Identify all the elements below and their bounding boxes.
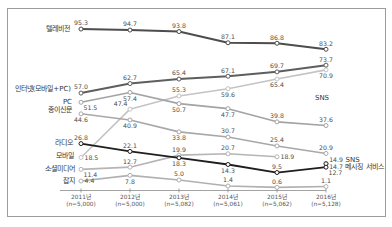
data-value-label: 73.7: [319, 56, 333, 63]
series-line: [81, 29, 326, 49]
x-tick-label-year: 2011년: [71, 193, 91, 200]
x-tick-label-year: 2013년: [169, 193, 189, 200]
data-value-label: 50.7: [172, 106, 186, 113]
data-point-marker: [324, 124, 328, 128]
line-chart: 2011년(n=5,000)2012년(n=5,000)2013년(n=5,08…: [0, 0, 392, 227]
data-value-label: 67.1: [221, 67, 235, 74]
data-point-marker: [275, 144, 279, 148]
data-value-label: 30.7: [221, 127, 235, 134]
data-value-label: 18.5: [85, 154, 99, 161]
data-value-label: 1.1: [321, 177, 331, 184]
data-value-label: 57.4: [123, 95, 137, 102]
data-value-label: 47.7: [221, 111, 235, 118]
data-value-label: 57.0: [74, 83, 88, 90]
data-value-label: 20.9: [319, 144, 333, 151]
data-point-marker: [79, 27, 83, 31]
series-name-label: 종이신문: [48, 105, 73, 114]
data-point-marker: [275, 155, 279, 159]
series-name-label: 모바일: [56, 151, 74, 160]
data-value-label: 18.3: [172, 160, 186, 167]
x-tick-label-sample-size: (n=5,082): [164, 201, 194, 207]
data-value-label: 40.9: [123, 122, 137, 129]
data-point-marker: [324, 165, 328, 169]
series-name-label: 잡지: [63, 176, 75, 185]
data-value-label: 62.7: [123, 74, 137, 81]
data-point-marker: [226, 41, 230, 45]
data-point-marker: [275, 171, 279, 175]
data-point-marker: [324, 151, 328, 155]
x-tick-label-sample-size: (n=5,062): [262, 201, 292, 207]
series-name-label: 소셜미디어: [45, 164, 75, 173]
series-2: 51.557.450.747.739.837.6PC: [63, 90, 333, 127]
x-tick-label-year: 2016년: [316, 193, 336, 200]
data-point-marker: [226, 135, 230, 139]
chart-container: 2011년(n=5,000)2012년(n=5,000)2013년(n=5,08…: [0, 0, 392, 227]
data-value-label: 25.4: [270, 136, 284, 143]
x-tick-label-year: 2014년: [218, 193, 238, 200]
data-value-label: 95.3: [74, 19, 88, 26]
series-0: 95.394.793.887.186.883.2텔레비전: [46, 19, 333, 51]
data-value-label: 19.9: [172, 146, 186, 153]
data-point-marker: [128, 28, 132, 32]
data-value-label: 39.8: [270, 112, 284, 119]
data-value-label: 86.8: [270, 34, 284, 41]
x-tick-label-sample-size: (n=5,000): [115, 201, 145, 207]
data-value-label: 51.5: [84, 104, 98, 111]
x-tick-label-year: 2015년: [267, 193, 287, 200]
x-tick-label-sample-size: (n=5,128): [311, 201, 341, 207]
data-value-label: 0.6: [272, 178, 282, 185]
data-value-label: 12.7: [329, 169, 343, 176]
data-point-marker: [324, 185, 328, 189]
data-point-marker: [79, 91, 83, 95]
data-value-label: 9.5: [272, 163, 282, 170]
data-point-marker: [275, 70, 279, 74]
data-point-marker: [226, 74, 230, 78]
data-point-marker: [79, 100, 83, 104]
data-point-marker: [275, 185, 279, 189]
data-point-marker: [128, 149, 132, 153]
data-point-marker: [226, 184, 230, 188]
series-7: 4.47.85.01.40.61.1잡지: [63, 170, 331, 189]
data-value-label: 94.7: [123, 20, 137, 27]
x-tick-label-sample-size: (n=5,061): [213, 201, 243, 207]
data-value-label: 65.4: [270, 81, 284, 88]
data-point-marker: [177, 30, 181, 34]
data-value-label: 12.7: [123, 158, 137, 165]
data-value-label: 33.8: [172, 134, 186, 141]
x-tick-label-year: 2012년: [120, 193, 140, 200]
annotation-label: SNS: [315, 94, 330, 102]
data-value-label: 20.7: [221, 144, 235, 151]
data-value-label: 1.4: [223, 176, 233, 183]
data-value-label: 4.4: [85, 177, 95, 184]
data-point-marker: [177, 178, 181, 182]
series-name-label: 텔레비전: [46, 24, 70, 33]
data-point-marker: [324, 63, 328, 67]
series-line: [81, 175, 326, 187]
data-value-label: 22.1: [123, 142, 137, 149]
x-axis: 2011년(n=5,000)2012년(n=5,000)2013년(n=5,08…: [60, 189, 341, 207]
data-value-label: 59.6: [221, 91, 235, 98]
data-value-label: 70.9: [319, 72, 333, 79]
data-point-marker: [128, 165, 132, 169]
data-point-marker: [128, 107, 132, 111]
series-6: 11.412.719.920.718.9소셜미디어: [45, 144, 294, 178]
data-value-label: 69.7: [270, 62, 284, 69]
data-value-label: 87.1: [221, 33, 235, 40]
series-line: [81, 70, 326, 158]
data-value-label: 26.8: [74, 134, 88, 141]
data-value-label: 65.4: [172, 69, 186, 76]
data-value-label: 44.6: [74, 116, 88, 123]
data-point-marker: [79, 167, 83, 171]
data-point-marker: [79, 142, 83, 146]
data-point-marker: [177, 77, 181, 81]
data-value-label: 5.0: [174, 170, 184, 177]
series-name-label: 메시징 서비스: [345, 162, 384, 171]
data-point-marker: [79, 155, 83, 159]
series-line: [81, 65, 326, 93]
data-point-marker: [226, 152, 230, 156]
series-name-label: 인터넷(모바일+PC): [15, 84, 72, 93]
data-value-label: 93.8: [172, 22, 186, 29]
data-point-marker: [275, 120, 279, 124]
x-tick-label-sample-size: (n=5,000): [66, 201, 96, 207]
data-point-marker: [275, 41, 279, 45]
